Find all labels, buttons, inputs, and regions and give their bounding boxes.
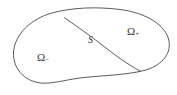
omega-minus-subscript: − — [45, 56, 49, 64]
label-omega-minus: Ω− — [37, 52, 49, 64]
omega-plus-symbol: Ω — [127, 25, 135, 37]
domain-diagram-svg — [0, 0, 177, 95]
label-interface-s: S — [88, 35, 93, 45]
omega-minus-symbol: Ω — [37, 51, 45, 63]
label-omega-plus: Ω+ — [127, 26, 139, 38]
omega-plus-subscript: + — [135, 30, 139, 38]
figure-container: Ω− Ω+ S — [0, 0, 177, 95]
diagram-background — [0, 0, 177, 95]
